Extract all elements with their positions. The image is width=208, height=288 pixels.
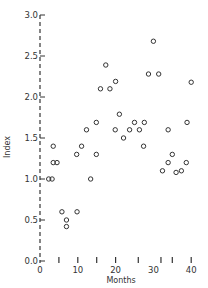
data-point	[185, 120, 189, 124]
y-axis-title: Index	[3, 136, 12, 158]
y-tick-label: 0.5	[24, 215, 38, 225]
data-point	[179, 169, 183, 173]
data-point	[108, 87, 112, 91]
data-point	[121, 136, 125, 140]
data-point	[74, 152, 78, 156]
y-tick-label: 1.0	[24, 174, 38, 184]
data-point	[64, 224, 68, 228]
data-point	[137, 128, 141, 132]
data-point	[84, 128, 88, 132]
data-point	[142, 120, 146, 124]
data-point	[64, 218, 68, 222]
data-point	[113, 128, 117, 132]
data-point	[104, 63, 108, 67]
data-point	[113, 79, 117, 83]
data-point	[75, 210, 79, 214]
x-tick-label: 30	[148, 265, 159, 275]
y-tick-label: 2.0	[24, 92, 38, 102]
data-point	[146, 72, 150, 76]
x-axis-ticks: 010203040	[37, 257, 196, 275]
data-point	[60, 210, 64, 214]
data-point	[170, 152, 174, 156]
y-axis-ticks: 0.00.51.01.52.02.53.0	[24, 10, 45, 266]
x-tick-label: 0	[37, 265, 42, 275]
y-tick-label: 1.5	[24, 133, 38, 143]
data-point	[166, 128, 170, 132]
data-point	[127, 128, 131, 132]
data-point	[51, 144, 55, 148]
data-point	[151, 39, 155, 43]
data-point	[156, 72, 160, 76]
scatter-chart: 0.00.51.01.52.02.53.0 010203040 Months I…	[0, 0, 208, 288]
y-tick-label: 0.0	[24, 256, 38, 266]
data-point	[132, 120, 136, 124]
data-point	[166, 160, 170, 164]
data-point	[174, 170, 178, 174]
data-point	[94, 120, 98, 124]
x-tick-label: 40	[186, 265, 197, 275]
data-point	[184, 160, 188, 164]
data-point	[79, 144, 83, 148]
data-point	[94, 152, 98, 156]
y-tick-label: 3.0	[24, 10, 38, 20]
data-point	[117, 112, 121, 116]
data-point	[141, 144, 145, 148]
data-point	[189, 80, 193, 84]
y-tick-label: 2.5	[24, 51, 38, 61]
data-point	[98, 87, 102, 91]
data-point	[160, 169, 164, 173]
x-tick-label: 20	[110, 265, 121, 275]
data-points	[46, 39, 193, 229]
x-axis-title: Months	[106, 276, 135, 285]
data-point	[88, 177, 92, 181]
x-tick-label: 10	[72, 265, 83, 275]
